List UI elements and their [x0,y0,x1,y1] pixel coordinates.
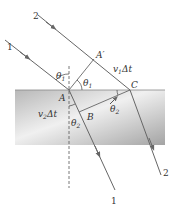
label-v1dt: v1Δt [113,64,132,75]
label-ray-1-in: 1 [7,42,13,52]
label-B: B [86,112,94,122]
label-v2dt: v2Δt [38,109,57,120]
ray-1-incident [5,40,69,90]
label-theta1-surface: θ1 [83,78,92,89]
theta1-arc-surface [77,80,82,90]
ray-1-arrow [20,52,28,58]
label-A: A [58,93,66,103]
label-ray-2-in: 2 [33,11,39,21]
label-A-prime: A′ [95,50,105,60]
ray-2-arrow [46,22,54,28]
label-ray-2-out: 2 [163,168,169,178]
label-C: C [131,80,138,90]
refraction-diagram: 2 1 A′ v1Δt θ1 θ1 C A θ2 v2Δt B θ2 2 1 [0,0,176,214]
label-ray-1-out: 1 [111,196,117,206]
label-theta1-top: θ1 [56,71,65,82]
ray-1-refracted-arrow [95,146,99,155]
